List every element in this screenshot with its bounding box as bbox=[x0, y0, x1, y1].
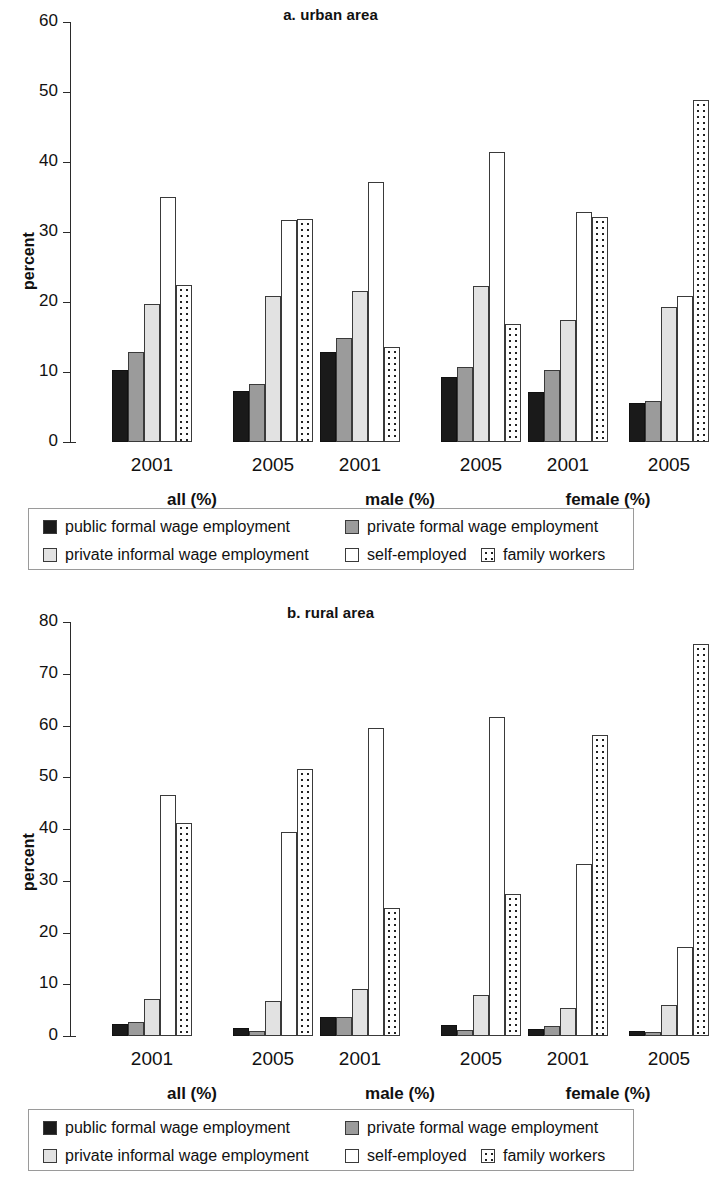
bar bbox=[473, 286, 489, 442]
y-axis-tick bbox=[63, 302, 70, 303]
legend-label: self-employed bbox=[367, 1147, 467, 1165]
bar bbox=[128, 352, 144, 442]
bar bbox=[297, 219, 313, 442]
bar bbox=[441, 377, 457, 442]
x-axis-year-label: 2001 bbox=[300, 1048, 420, 1070]
y-axis-tick-label: 40 bbox=[14, 151, 58, 171]
y-axis-tick-label: 10 bbox=[14, 973, 58, 993]
x-axis-group-label: all (%) bbox=[102, 1084, 282, 1104]
legend-swatch-icon bbox=[43, 1149, 57, 1163]
bar bbox=[505, 324, 521, 442]
chart-panel-rural: b. rural area percent 010203040506070802… bbox=[0, 596, 661, 1184]
bar bbox=[645, 1032, 661, 1036]
x-axis-group-label: female (%) bbox=[518, 490, 698, 510]
legend-rural: public formal wage employmentprivate for… bbox=[28, 1109, 634, 1171]
bar bbox=[489, 717, 505, 1036]
plot-area-rural: 0102030405060708020012005200120052001200… bbox=[70, 622, 655, 1036]
legend-item[interactable]: self-employed bbox=[345, 541, 467, 568]
legend-label: private informal wage employment bbox=[65, 546, 309, 564]
bar-cluster bbox=[441, 22, 521, 442]
y-axis-tick-label: 40 bbox=[14, 818, 58, 838]
x-axis-baseline bbox=[70, 442, 76, 443]
y-axis-line bbox=[70, 22, 71, 442]
x-axis-year-label: 2001 bbox=[92, 1048, 212, 1070]
legend-label: family workers bbox=[503, 1147, 605, 1165]
y-axis-tick bbox=[63, 372, 70, 373]
legend-item[interactable]: private formal wage employment bbox=[345, 513, 598, 540]
bar bbox=[249, 1031, 265, 1036]
bar bbox=[592, 217, 608, 442]
legend-item[interactable]: public formal wage employment bbox=[43, 513, 290, 540]
legend-swatch-icon bbox=[43, 1121, 57, 1135]
y-axis-tick bbox=[63, 674, 70, 675]
legend-item[interactable]: private formal wage employment bbox=[345, 1114, 598, 1141]
bar-cluster bbox=[320, 622, 400, 1036]
bar bbox=[645, 401, 661, 442]
bar bbox=[352, 291, 368, 442]
y-axis-tick-label: 0 bbox=[14, 1025, 58, 1045]
bar bbox=[693, 100, 709, 442]
legend-item[interactable]: self-employed bbox=[345, 1142, 467, 1169]
y-axis-tick-label: 20 bbox=[14, 922, 58, 942]
legend-item[interactable]: family workers bbox=[481, 1142, 605, 1169]
x-axis-group-label: male (%) bbox=[310, 1084, 490, 1104]
bar bbox=[544, 370, 560, 442]
bar bbox=[693, 644, 709, 1036]
bar bbox=[457, 367, 473, 442]
bar bbox=[281, 832, 297, 1036]
plot-area-urban: 0102030405060200120052001200520012005all… bbox=[70, 22, 655, 442]
bar bbox=[265, 1001, 281, 1036]
bar bbox=[128, 1022, 144, 1036]
bar bbox=[629, 1031, 645, 1036]
y-axis-tick bbox=[63, 232, 70, 233]
x-axis-year-label: 2005 bbox=[609, 454, 713, 476]
bar bbox=[441, 1025, 457, 1036]
y-axis-tick-label: 10 bbox=[14, 361, 58, 381]
y-axis-tick bbox=[63, 984, 70, 985]
bar bbox=[281, 220, 297, 442]
bar bbox=[677, 947, 693, 1036]
y-axis-tick-label: 20 bbox=[14, 291, 58, 311]
bar bbox=[368, 182, 384, 442]
legend-label: private formal wage employment bbox=[367, 518, 598, 536]
legend-label: self-employed bbox=[367, 546, 467, 564]
y-axis-tick bbox=[63, 881, 70, 882]
y-axis-tick-label: 0 bbox=[14, 431, 58, 451]
legend-label: family workers bbox=[503, 546, 605, 564]
bar bbox=[233, 1028, 249, 1036]
legend-label: public formal wage employment bbox=[65, 1119, 290, 1137]
legend-swatch-icon bbox=[345, 1149, 359, 1163]
legend-item[interactable]: private informal wage employment bbox=[43, 1142, 309, 1169]
bar-cluster bbox=[629, 622, 709, 1036]
y-axis-tick bbox=[63, 92, 70, 93]
legend-swatch-icon bbox=[481, 1149, 495, 1163]
legend-row: private informal wage employmentself-emp… bbox=[29, 1142, 633, 1169]
x-axis-group-label: male (%) bbox=[310, 490, 490, 510]
bar bbox=[336, 1017, 352, 1036]
bar bbox=[176, 285, 192, 442]
bar bbox=[320, 1017, 336, 1036]
bar bbox=[473, 995, 489, 1036]
legend-item[interactable]: private informal wage employment bbox=[43, 541, 309, 568]
bar bbox=[112, 1024, 128, 1036]
bar bbox=[297, 769, 313, 1036]
legend-item[interactable]: public formal wage employment bbox=[43, 1114, 290, 1141]
legend-label: private formal wage employment bbox=[367, 1119, 598, 1137]
bar-cluster bbox=[528, 622, 608, 1036]
bar bbox=[576, 212, 592, 442]
x-axis-year-label: 2005 bbox=[609, 1048, 713, 1070]
y-axis-tick bbox=[63, 933, 70, 934]
y-axis-tick bbox=[63, 162, 70, 163]
x-axis-year-label: 2001 bbox=[300, 454, 420, 476]
bar bbox=[384, 908, 400, 1036]
bar-cluster bbox=[233, 22, 313, 442]
bar bbox=[368, 728, 384, 1036]
bar bbox=[560, 1008, 576, 1036]
legend-row: public formal wage employmentprivate for… bbox=[29, 513, 633, 540]
y-axis-tick bbox=[63, 829, 70, 830]
legend-item[interactable]: family workers bbox=[481, 541, 605, 568]
bar-cluster bbox=[629, 22, 709, 442]
x-axis-year-label: 2001 bbox=[92, 454, 212, 476]
bar bbox=[336, 338, 352, 442]
bar bbox=[592, 735, 608, 1036]
